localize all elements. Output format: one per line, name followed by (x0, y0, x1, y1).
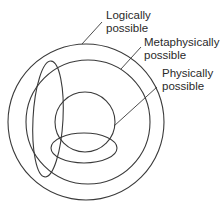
possibility-diagram: Logically possible Metaphysically possib… (0, 0, 222, 214)
metaphysical-label-line2: possible (144, 49, 186, 61)
horizontal-ellipse (51, 133, 117, 163)
metaphysical-label-line1: Metaphysically (144, 36, 220, 48)
metaphysically-possible-circle (26, 60, 150, 184)
logical-label-line2: possible (106, 22, 148, 34)
physical-leader-line (114, 87, 157, 126)
vertical-ellipse (30, 60, 66, 177)
physical-label-line2: possible (162, 80, 204, 92)
physical-label-line1: Physically (162, 67, 213, 79)
metaphysical-leader-line (121, 47, 141, 69)
logically-possible-circle (8, 44, 164, 200)
logical-leader-line (82, 22, 102, 44)
physically-possible-circle (55, 92, 115, 152)
logical-label-line1: Logically (106, 9, 151, 21)
